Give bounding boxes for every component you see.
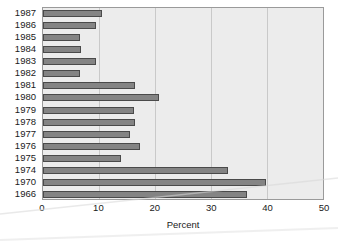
y-axis-tick-1983: 1983 [0, 55, 39, 67]
y-axis-tick-1974: 1974 [0, 164, 39, 176]
bar-row [43, 56, 323, 68]
bar-row [43, 105, 323, 117]
bar-1985 [43, 34, 80, 41]
bar-1966 [43, 191, 247, 198]
y-axis-tick-1986: 1986 [0, 19, 39, 31]
bar-1986 [43, 22, 96, 29]
bar-1980 [43, 94, 159, 101]
bar-1982 [43, 70, 80, 77]
y-axis-tick-labels: 1987198619851984198319821981198019791978… [0, 7, 39, 200]
bar-row [43, 141, 323, 153]
y-axis-tick-1987: 1987 [0, 7, 39, 19]
y-axis-tick-1985: 1985 [0, 31, 39, 43]
y-axis-tick-1981: 1981 [0, 79, 39, 91]
y-axis-tick-1982: 1982 [0, 67, 39, 79]
bar-chart: 1987198619851984198319821981198019791978… [0, 0, 338, 242]
bar-1977 [43, 131, 130, 138]
bar-1970 [43, 179, 266, 186]
bar-row [43, 32, 323, 44]
bar-1978 [43, 119, 135, 126]
bar-row [43, 92, 323, 104]
bar-series [43, 8, 323, 199]
bar-1983 [43, 58, 96, 65]
bar-row [43, 20, 323, 32]
x-axis-tick-labels: 01020304050 [42, 202, 324, 216]
bar-row [43, 68, 323, 80]
y-axis-tick-1975: 1975 [0, 152, 39, 164]
bar-1981 [43, 82, 135, 89]
bar-1974 [43, 167, 228, 174]
bar-1975 [43, 155, 121, 162]
x-axis-tick-30: 30 [206, 202, 217, 213]
bar-row [43, 165, 323, 177]
bar-row [43, 8, 323, 20]
bar-1984 [43, 46, 81, 53]
y-axis-tick-1977: 1977 [0, 128, 39, 140]
plot-area [42, 7, 324, 200]
bar-row [43, 44, 323, 56]
x-axis-title: Percent [42, 219, 324, 230]
bar-row [43, 80, 323, 92]
bar-row [43, 129, 323, 141]
y-axis-tick-1976: 1976 [0, 140, 39, 152]
y-axis-tick-1966: 1966 [0, 188, 39, 200]
x-axis-tick-0: 0 [39, 202, 44, 213]
bar-row [43, 189, 323, 201]
bar-row [43, 177, 323, 189]
x-axis-tick-20: 20 [150, 202, 161, 213]
y-axis-tick-1979: 1979 [0, 104, 39, 116]
bar-1979 [43, 107, 134, 114]
y-axis-tick-1984: 1984 [0, 43, 39, 55]
x-axis-tick-40: 40 [262, 202, 273, 213]
y-axis-tick-1980: 1980 [0, 91, 39, 103]
x-axis-tick-50: 50 [319, 202, 330, 213]
bar-1987 [43, 10, 102, 17]
y-axis-tick-1970: 1970 [0, 176, 39, 188]
bar-1976 [43, 143, 140, 150]
bar-row [43, 117, 323, 129]
x-axis-tick-10: 10 [93, 202, 104, 213]
bar-row [43, 153, 323, 165]
y-axis-tick-1978: 1978 [0, 116, 39, 128]
